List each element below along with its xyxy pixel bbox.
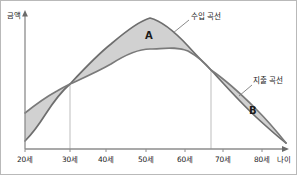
x-tick-label-60: 60세 (177, 155, 193, 164)
x-tick-label-50: 50세 (138, 155, 154, 164)
x-tick-label-30: 30세 (62, 155, 78, 164)
x-axis-arrowhead (282, 146, 289, 152)
y-axis-arrowhead (22, 10, 28, 17)
x-tick-label-20: 20세 (17, 155, 33, 164)
y-axis-title: 금액 (7, 11, 21, 20)
income-expenditure-chart: 금액 20세 30세 40세 50세 60세 70세 80세 나이 수입 곡선 … (1, 1, 297, 175)
income-curve-leader-line (173, 20, 189, 33)
expense-curve-label: 지출 곡선 (253, 75, 283, 85)
x-tick-label-80: 80세 (254, 155, 270, 164)
x-tick-label-40: 40세 (98, 155, 114, 164)
chart-figure: 금액 20세 30세 40세 50세 60세 70세 80세 나이 수입 곡선 … (0, 0, 297, 175)
expense-curve-leader-line (239, 85, 252, 96)
x-tick-label-70: 70세 (215, 155, 231, 164)
income-curve-label: 수입 곡선 (191, 12, 221, 21)
expense-curve (25, 48, 286, 143)
region-b-label: B (249, 105, 257, 116)
x-axis-title: 나이 (277, 155, 291, 164)
region-a-label: A (145, 30, 153, 41)
